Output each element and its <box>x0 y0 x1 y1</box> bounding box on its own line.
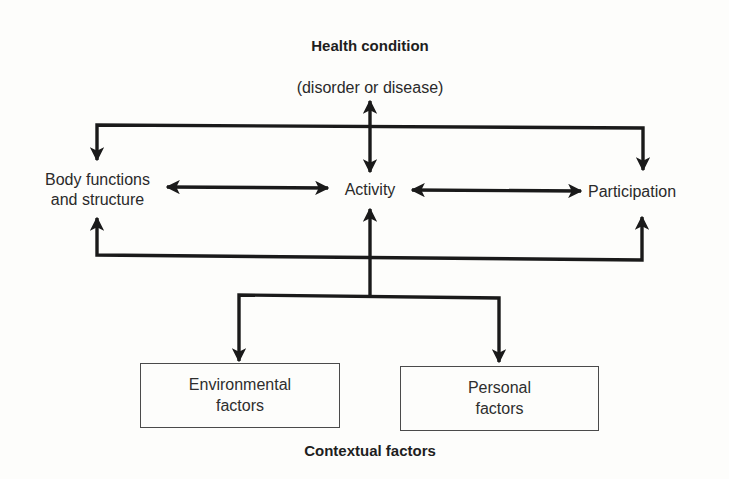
body-functions-node: Body functions and structure <box>30 170 165 210</box>
environmental-line2: factors <box>189 396 291 417</box>
body-functions-line2: and structure <box>30 190 165 210</box>
personal-line1: Personal <box>468 378 531 399</box>
contextual-bus-connector <box>239 295 499 362</box>
body-activity-arrow <box>167 187 328 188</box>
health-condition-title: Health condition <box>300 37 440 55</box>
personal-factors-box: Personal factors <box>400 366 599 431</box>
participation-node: Participation <box>588 182 676 201</box>
activity-participation-arrow <box>412 190 581 191</box>
environmental-line1: Environmental <box>189 375 291 396</box>
environmental-factors-box: Environmental factors <box>140 363 340 428</box>
contextual-factors-title: Contextual factors <box>280 442 460 460</box>
personal-line2: factors <box>468 399 531 420</box>
diagram-connectors <box>0 0 729 479</box>
body-functions-line1: Body functions <box>30 170 165 190</box>
health-condition-subtitle: (disorder or disease) <box>280 78 460 97</box>
activity-node: Activity <box>330 180 410 199</box>
